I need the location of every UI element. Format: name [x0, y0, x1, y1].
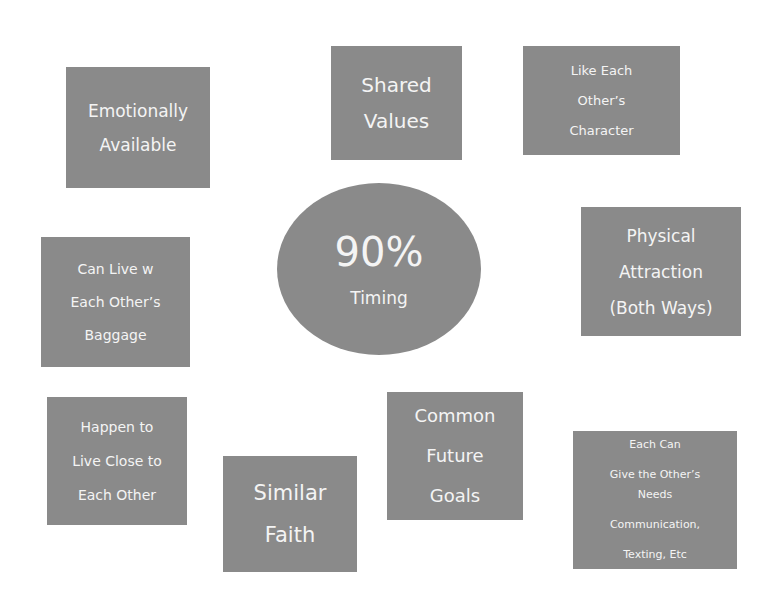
center-ellipse-timing: 90% Timing	[277, 183, 481, 355]
node-line: Live Close to	[72, 444, 162, 478]
node-shared-values: Shared Values	[331, 46, 462, 160]
node-line: Emotionally	[88, 94, 188, 128]
node-can-live-with-baggage: Can Live w Each Other’s Baggage	[41, 237, 190, 367]
node-line: Give the Other’s	[610, 465, 700, 485]
node-each-can-give-needs: Each Can Give the Other’s Needs Communic…	[573, 431, 737, 569]
node-line: Like Each	[571, 56, 633, 86]
node-line: Baggage	[84, 319, 146, 352]
node-line: Values	[364, 103, 429, 139]
node-line: Goals	[430, 476, 480, 516]
node-line: Each Other	[78, 478, 156, 512]
node-line: Available	[100, 128, 177, 162]
node-line: Physical	[626, 218, 695, 254]
node-line: Common	[414, 396, 495, 436]
node-line: Can Live w	[77, 253, 153, 286]
center-label: Timing	[350, 288, 407, 308]
node-line: Future	[426, 436, 483, 476]
node-line: Happen to	[81, 410, 154, 444]
node-line: Faith	[265, 514, 315, 556]
node-line: Character	[569, 116, 633, 146]
node-line: (Both Ways)	[609, 290, 712, 326]
node-physical-attraction: Physical Attraction (Both Ways)	[581, 207, 741, 336]
node-like-each-others-character: Like Each Other’s Character	[523, 46, 680, 155]
node-similar-faith: Similar Faith	[223, 456, 357, 572]
center-percentage: 90%	[335, 230, 424, 274]
node-line: Other’s	[578, 86, 626, 116]
node-line: Attraction	[619, 254, 703, 290]
node-common-future-goals: Common Future Goals	[387, 392, 523, 520]
node-line: Each Can	[629, 435, 681, 455]
node-line: Communication,	[610, 515, 700, 535]
node-line: Shared	[361, 67, 431, 103]
node-line: Texting, Etc	[623, 545, 687, 565]
node-emotionally-available: Emotionally Available	[66, 67, 210, 188]
node-line: Similar	[254, 472, 327, 514]
node-live-close: Happen to Live Close to Each Other	[47, 397, 187, 525]
node-line: Each Other’s	[71, 286, 161, 319]
node-line: Needs	[638, 485, 672, 505]
